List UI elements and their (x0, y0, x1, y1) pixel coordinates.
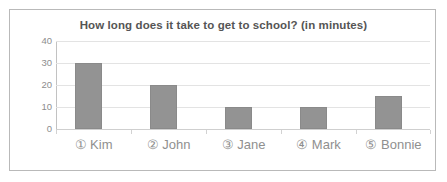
chart-title: How long does it take to get to school? … (10, 19, 437, 31)
gridline-30 (56, 63, 430, 64)
x-tick-5 (430, 130, 431, 134)
x-label-jane: ③ Jane (206, 136, 281, 154)
y-axis-tick-labels: 40 30 20 10 0 (30, 41, 52, 129)
bar-mark (300, 107, 327, 129)
chart-frame: How long does it take to get to school? … (9, 9, 436, 171)
x-label-mark: ④ Mark (281, 136, 356, 154)
y-tick-label-20: 20 (32, 80, 52, 90)
x-tick-4 (356, 130, 357, 134)
gridline-40 (56, 41, 430, 42)
x-tick-0 (56, 130, 57, 134)
x-label-john: ② John (131, 136, 206, 154)
x-tick-3 (281, 130, 282, 134)
bar-john (150, 85, 177, 129)
y-tick-label-10: 10 (32, 102, 52, 112)
x-label-bonnie: ⑤ Bonnie (356, 136, 431, 154)
gridline-20 (56, 85, 430, 86)
x-tick-2 (206, 130, 207, 134)
y-tick-label-30: 30 (32, 58, 52, 68)
bar-kim (75, 63, 102, 129)
gridline-baseline-0 (56, 129, 430, 130)
x-tick-1 (131, 130, 132, 134)
bar-jane (225, 107, 252, 129)
x-label-kim: ① Kim (56, 136, 131, 154)
y-tick-label-0: 0 (32, 124, 52, 134)
bar-bonnie (375, 96, 402, 129)
plot-area (56, 41, 430, 129)
x-axis-category-labels: ① Kim ② John ③ Jane ④ Mark ⑤ Bonnie (56, 136, 430, 158)
y-tick-label-40: 40 (32, 36, 52, 46)
